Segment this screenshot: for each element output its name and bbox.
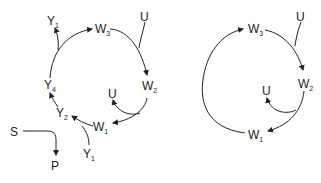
- node-w1: W1: [248, 128, 263, 143]
- line-u-top-input: [139, 22, 145, 48]
- node-w2: W2: [298, 77, 313, 92]
- right-cycle-diagram: W3 W2 W1 U U: [202, 10, 313, 143]
- arrow-w1-to-w3: [202, 29, 245, 133]
- node-s: S: [10, 125, 18, 139]
- node-w2: W2: [142, 79, 157, 94]
- node-y2: Y2: [56, 106, 68, 121]
- left-cycle-diagram: W3 W2 W1 U U Y1 Y4 Y2 Y1 S P: [10, 10, 157, 173]
- node-u-inner: U: [262, 84, 271, 98]
- line-u-top-input: [295, 22, 301, 46]
- node-w3: W3: [95, 22, 110, 37]
- node-y1-top: Y1: [47, 14, 59, 29]
- arrow-to-u-inner: [267, 98, 296, 112]
- node-y1-bottom: Y1: [83, 147, 95, 162]
- arrow-w1-to-y2: [72, 116, 93, 126]
- node-u-top: U: [296, 10, 305, 24]
- node-p: P: [51, 159, 59, 173]
- arrow-s-to-p: [23, 131, 56, 155]
- node-u-inner: U: [108, 87, 117, 101]
- arrow-y2-to-y4: [50, 93, 58, 107]
- node-w3: W3: [248, 22, 263, 37]
- arrow-w2-to-w1: [268, 91, 304, 131]
- arrow-w3-to-w2: [265, 30, 303, 70]
- arrow-to-y1-top: [55, 28, 58, 50]
- line-y1-bottom-input: [82, 126, 89, 145]
- node-w1: W1: [93, 120, 108, 135]
- node-y4: Y4: [44, 78, 56, 93]
- diagram-canvas: W3 W2 W1 U U Y1 Y4 Y2 Y1 S P W3 W2 W1 U …: [0, 0, 321, 183]
- arrow-y4-to-w3: [50, 29, 92, 78]
- arrow-w2-to-w1: [113, 98, 147, 123]
- node-u-top: U: [140, 10, 149, 24]
- arrow-to-u-inner: [113, 100, 140, 114]
